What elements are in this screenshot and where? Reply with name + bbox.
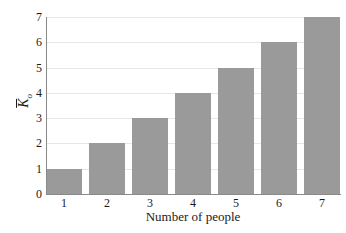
bar <box>89 143 125 194</box>
bar <box>261 42 297 194</box>
y-axis-line <box>46 17 47 195</box>
y-axis-tick-label: 5 <box>28 62 42 74</box>
bar <box>175 93 211 194</box>
y-axis-tick-label: 1 <box>28 163 42 175</box>
x-axis-line <box>46 194 341 195</box>
y-axis-tick-label: 0 <box>28 188 42 200</box>
y-axis-tick-label: 6 <box>28 36 42 48</box>
bar <box>218 68 254 194</box>
y-axis-tick-label: 4 <box>28 87 42 99</box>
y-axis-tick-label: 7 <box>28 11 42 23</box>
y-axis-tick-labels: 76543210 <box>24 17 42 194</box>
bar <box>304 17 340 194</box>
bar <box>132 118 168 194</box>
y-axis-tick-label: 2 <box>28 137 42 149</box>
y-axis-tick-label: 3 <box>28 112 42 124</box>
x-axis-title: Number of people <box>46 210 340 223</box>
bar <box>46 169 82 194</box>
bars-layer <box>46 17 340 194</box>
plot-area <box>46 17 340 194</box>
bar-chart-figure: Ko 76543210 1234567 Number of people <box>0 0 346 233</box>
